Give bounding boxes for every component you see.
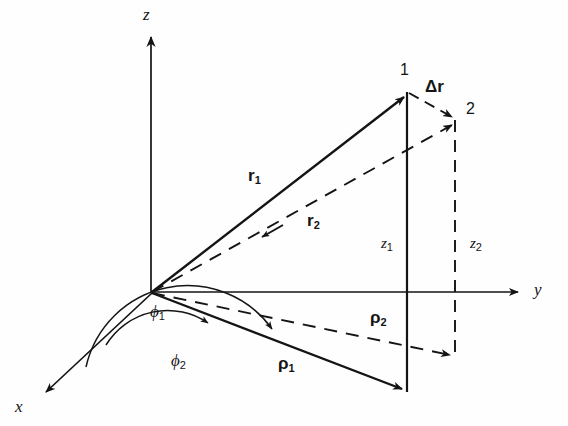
r1-vector — [152, 97, 404, 292]
vector-diagram-figure: z y x 1 2 r1 r2 ρ1 ρ2 Δr z1 z2 ϕ1 ϕ2 — [0, 0, 568, 426]
rho2-vector — [152, 293, 450, 355]
x-axis-label: x — [15, 398, 23, 415]
rho1-vector — [152, 293, 402, 389]
z-axis-label: z — [143, 6, 150, 23]
rho1-label-subscript: 1 — [289, 362, 295, 374]
delta-r-label: Δr — [425, 78, 444, 95]
phi1-label-subscript: 1 — [159, 310, 165, 322]
point-2-label: 2 — [466, 101, 475, 117]
z1-label-subscript: 1 — [387, 241, 393, 253]
phi2-label: ϕ2 — [171, 352, 186, 371]
rho2-label: ρ2 — [370, 309, 387, 328]
point-1-label: 1 — [400, 62, 409, 78]
r1-label: r1 — [248, 167, 261, 186]
z1-label: z1 — [381, 236, 393, 253]
phi1-label: ϕ1 — [150, 303, 165, 322]
r1-label-subscript: 1 — [255, 174, 261, 186]
rho1-label-text: ρ — [278, 354, 289, 373]
r2-label: r2 — [307, 212, 320, 231]
delta-r-vector — [409, 93, 452, 117]
r2-label-text: r — [307, 211, 314, 230]
z2-label: z2 — [470, 236, 482, 253]
z2-label-subscript: 2 — [476, 241, 482, 253]
phi1-label-text: ϕ — [150, 302, 159, 321]
phi2-label-text: ϕ — [171, 351, 180, 370]
r2-mid-arrowhead — [262, 225, 283, 237]
phi2-label-subscript: 2 — [180, 359, 186, 371]
x-axis-line — [46, 293, 152, 392]
r2-label-subscript: 2 — [314, 219, 320, 231]
r1-label-text: r — [248, 166, 255, 185]
rho2-label-text: ρ — [370, 308, 381, 327]
y-axis-label: y — [534, 281, 542, 298]
rho1-label: ρ1 — [278, 355, 295, 374]
rho2-label-subscript: 2 — [381, 316, 387, 328]
